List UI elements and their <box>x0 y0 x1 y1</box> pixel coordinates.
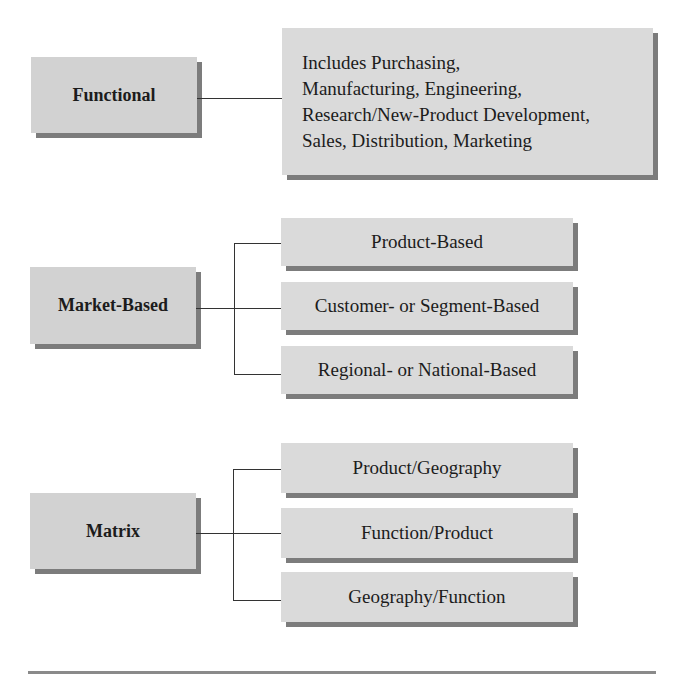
market-based-child-box: Regional- or National-Based <box>281 346 573 394</box>
market-based-box: Market-Based <box>30 267 196 344</box>
matrix-child-box: Geography/Function <box>281 572 573 622</box>
matrix-bracket <box>233 469 234 601</box>
market-based-child-label: Regional- or National-Based <box>318 359 536 381</box>
market-based-branch-1 <box>234 243 281 244</box>
functional-detail-text: Includes Purchasing, Manufacturing, Engi… <box>302 50 590 154</box>
matrix-branch-3 <box>233 600 281 601</box>
matrix-connector <box>196 533 281 534</box>
matrix-label: Matrix <box>86 521 140 542</box>
matrix-child-label: Function/Product <box>361 522 493 544</box>
market-based-child-box: Customer- or Segment-Based <box>281 282 573 330</box>
matrix-child-label: Product/Geography <box>353 457 502 479</box>
market-based-label: Market-Based <box>58 295 168 316</box>
functional-box: Functional <box>31 57 197 133</box>
matrix-branch-1 <box>233 469 281 470</box>
market-based-child-label: Customer- or Segment-Based <box>315 295 539 317</box>
matrix-child-box: Function/Product <box>281 508 573 558</box>
market-based-branch-3 <box>234 374 281 375</box>
functional-detail-box: Includes Purchasing, Manufacturing, Engi… <box>282 28 653 175</box>
market-based-connector <box>196 308 281 309</box>
functional-connector <box>197 98 282 99</box>
functional-label: Functional <box>72 85 155 106</box>
bottom-rule <box>28 671 656 674</box>
matrix-child-box: Product/Geography <box>281 443 573 493</box>
matrix-child-label: Geography/Function <box>348 586 505 608</box>
matrix-box: Matrix <box>30 493 196 569</box>
market-based-child-box: Product-Based <box>281 218 573 266</box>
market-based-bracket <box>234 243 235 375</box>
market-based-child-label: Product-Based <box>371 231 483 253</box>
